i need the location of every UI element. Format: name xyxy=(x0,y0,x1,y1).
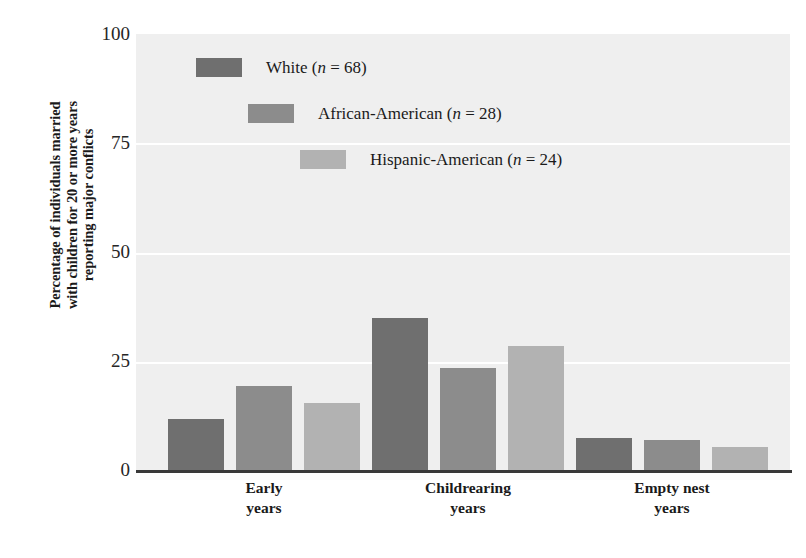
bar-childrearing-years-hispanic-american xyxy=(508,346,564,471)
bar-early-years-white xyxy=(168,419,224,471)
y-tick-label-0: 0 xyxy=(84,460,130,479)
bar-early-years-african-american xyxy=(236,386,292,471)
y-axis-tick-labels: 100 75 50 25 0 xyxy=(84,0,130,558)
bar-early-years-hispanic-american xyxy=(304,403,360,471)
y-tick-label-50: 50 xyxy=(84,242,130,261)
bar-empty-nest-years-white xyxy=(576,438,632,471)
x-tick-label-childrearing-years-line-1: Childrearing xyxy=(364,478,572,498)
x-tick-label-childrearing-years: Childrearing years xyxy=(364,478,572,518)
y-axis-title-line-2: with children for 20 or more years xyxy=(64,101,81,309)
chart-legend: White (n = 68) African-American (n = 28)… xyxy=(136,58,790,178)
bar-childrearing-years-african-american xyxy=(440,368,496,471)
x-axis-line xyxy=(136,470,792,473)
legend-label-african-american: African-American (n = 28) xyxy=(318,105,502,122)
y-axis-title-line-1: Percentage of individuals married xyxy=(47,101,64,308)
x-axis-tick-labels: Early years Childrearing years Empty nes… xyxy=(136,478,790,538)
legend-swatch-white-icon xyxy=(196,58,242,77)
x-tick-label-early-years: Early years xyxy=(160,478,368,518)
legend-entry-hispanic-american: Hispanic-American (n = 24) xyxy=(300,150,562,169)
y-tick-label-75: 75 xyxy=(84,133,130,152)
bar-empty-nest-years-hispanic-american xyxy=(712,447,768,471)
x-tick-label-early-years-line-1: Early xyxy=(160,478,368,498)
bar-childrearing-years-white xyxy=(372,318,428,471)
bar-empty-nest-years-african-american xyxy=(644,440,700,471)
y-tick-label-25: 25 xyxy=(84,351,130,370)
y-tick-label-100: 100 xyxy=(84,24,130,43)
legend-entry-white: White (n = 68) xyxy=(196,58,367,77)
bar-chart-figure: Percentage of individuals married with c… xyxy=(0,0,806,558)
x-tick-label-empty-nest-years-line-2: years xyxy=(568,498,776,518)
legend-label-white: White (n = 68) xyxy=(266,59,367,76)
x-tick-label-empty-nest-years: Empty nest years xyxy=(568,478,776,518)
legend-swatch-african-american-icon xyxy=(248,104,294,123)
x-tick-label-early-years-line-2: years xyxy=(160,498,368,518)
x-tick-label-empty-nest-years-line-1: Empty nest xyxy=(568,478,776,498)
x-tick-label-childrearing-years-line-2: years xyxy=(364,498,572,518)
legend-entry-african-american: African-American (n = 28) xyxy=(248,104,502,123)
legend-label-hispanic-american: Hispanic-American (n = 24) xyxy=(370,151,562,168)
legend-swatch-hispanic-american-icon xyxy=(300,150,346,169)
